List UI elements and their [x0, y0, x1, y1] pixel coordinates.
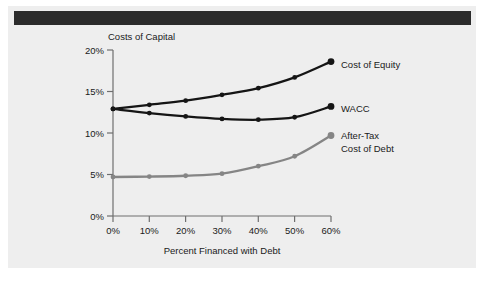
data-point [183, 114, 188, 119]
series-points-after-tax-cost-of-debt [111, 132, 335, 179]
series-label-cost-of-equity: Cost of Equity [341, 59, 400, 70]
data-point [147, 174, 152, 179]
x-axis-title: Percent Financed with Debt [164, 245, 281, 256]
x-tick-label-20: 20% [176, 225, 196, 236]
line-chart-svg: 20% 15% 10% 5% 0% 0% 10% 20% 30% 40% 50%… [8, 6, 476, 268]
x-tick-label-60: 60% [321, 225, 341, 236]
data-point [220, 92, 225, 97]
y-tick-label-10: 10% [85, 128, 105, 139]
series-line-after-tax-cost-of-debt [113, 135, 331, 177]
series-label-after-tax: After-Tax [341, 130, 379, 141]
y-tick-label-0: 0% [90, 211, 104, 222]
data-point [220, 171, 225, 176]
x-tick-label-50: 50% [285, 225, 305, 236]
plot-area: 20% 15% 10% 5% 0% 0% 10% 20% 30% 40% 50%… [8, 6, 476, 268]
y-axis-title: Costs of Capital [108, 31, 175, 42]
data-point [256, 86, 261, 91]
x-tick-label-30: 30% [212, 225, 232, 236]
data-point [147, 111, 152, 116]
series-label-wacc: WACC [341, 103, 370, 114]
data-point [328, 103, 335, 110]
data-point [111, 107, 116, 112]
x-tick-label-40: 40% [249, 225, 269, 236]
data-point [292, 115, 297, 120]
data-point [256, 164, 261, 169]
series-line-cost-of-equity [113, 62, 331, 109]
data-point [147, 102, 152, 107]
series-group [111, 58, 335, 179]
data-point [220, 116, 225, 121]
data-point [328, 132, 335, 139]
series-points-cost-of-equity [111, 58, 335, 111]
x-tick-label-0: 0% [106, 225, 120, 236]
data-point [256, 117, 261, 122]
data-point [292, 154, 297, 159]
figure-container: 20% 15% 10% 5% 0% 0% 10% 20% 30% 40% 50%… [0, 0, 484, 284]
y-tick-label-15: 15% [85, 86, 105, 97]
data-point [292, 75, 297, 80]
x-tick-label-10: 10% [140, 225, 160, 236]
data-point [183, 98, 188, 103]
y-tick-label-5: 5% [90, 169, 104, 180]
data-point [111, 175, 116, 180]
series-label-cost-of-debt: Cost of Debt [341, 143, 394, 154]
data-point [183, 173, 188, 178]
y-tick-label-20: 20% [85, 45, 105, 56]
data-point [328, 58, 335, 65]
